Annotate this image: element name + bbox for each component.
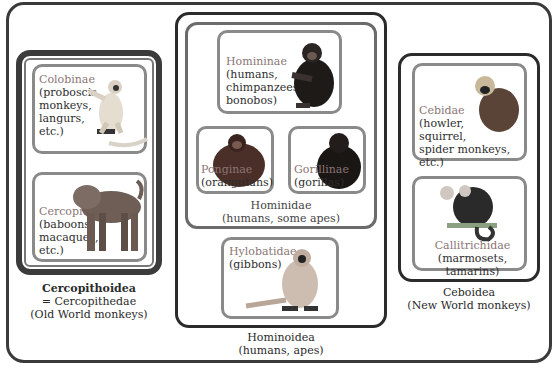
- hominoidea-caption: Hominoidea (humans, apes): [175, 331, 387, 357]
- chimpanzee-icon: [282, 39, 338, 111]
- hominidae-caption: Hominidae (humans, some apes): [185, 199, 377, 225]
- colobinae-box: Colobinae (proboscis monkeys, langurs, e…: [32, 64, 147, 154]
- gorillinae-label: Gorillinae (gorillas): [294, 163, 349, 189]
- hylobatidae-box: Hylobatidae (gibbons): [221, 237, 339, 319]
- cercopithecinae-box: Cercopithecinae (baboons, macaques, etc.…: [32, 172, 147, 262]
- langur-icon: [79, 73, 149, 151]
- gibbon-icon: [242, 246, 338, 318]
- marmoset-icon: [435, 183, 505, 243]
- ponginae-label: Ponginae (orangutans): [201, 163, 273, 189]
- ponginae-box: Ponginae (orangutans): [196, 126, 274, 194]
- baboon-icon: [65, 177, 147, 259]
- callitrichidae-box: Callitrichidae (marmosets, tamarins): [412, 176, 527, 271]
- ceboidea-caption: Ceboidea (New World monkeys): [398, 286, 540, 312]
- gorillinae-box: Gorillinae (gorillas): [288, 126, 366, 194]
- cebidae-box: Cebidae (howler, squirrel, spider monkey…: [412, 63, 527, 161]
- cercopithoidea-caption: Cercopithoidea = Cercopithedae (Old Worl…: [16, 282, 162, 321]
- callitrichidae-label: Callitrichidae (marmosets, tamarins): [415, 239, 530, 278]
- cebidae-label: Cebidae (howler, squirrel, spider monkey…: [419, 104, 524, 169]
- homininae-box: Homininae (humans, chimpanzees, bonobos): [217, 30, 342, 114]
